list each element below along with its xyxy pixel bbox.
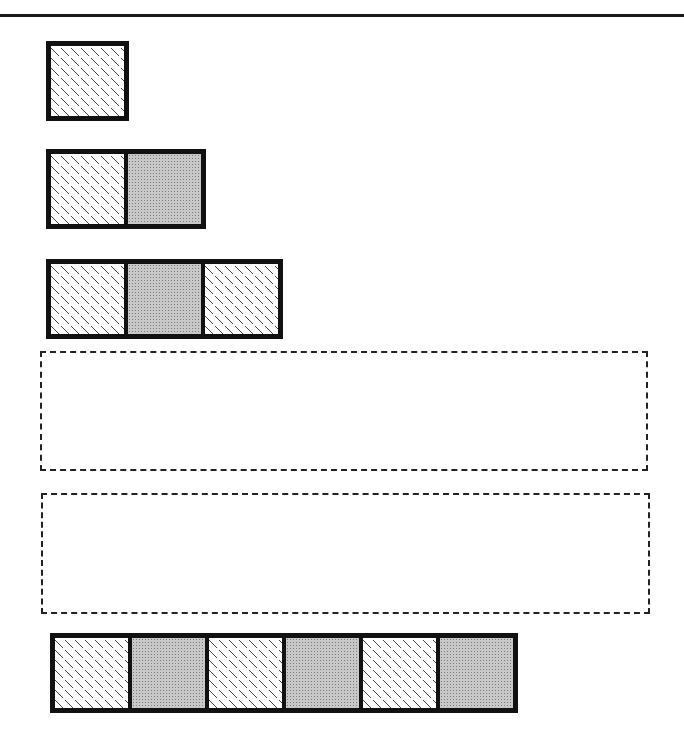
stipple-tile <box>128 264 201 334</box>
diamond-tile <box>51 154 124 224</box>
tile-strip-3 <box>46 259 283 339</box>
empty-placeholder-2 <box>41 493 650 614</box>
diamond-tile <box>51 46 124 116</box>
stipple-tile <box>132 638 205 708</box>
diamond-tile <box>205 264 278 334</box>
tile-strip-2 <box>46 149 206 229</box>
stipple-tile <box>128 154 201 224</box>
stipple-tile <box>286 638 359 708</box>
stipple-tile <box>440 638 513 708</box>
diamond-tile <box>51 264 124 334</box>
diamond-tile <box>209 638 282 708</box>
diamond-tile <box>363 638 436 708</box>
tile-strip-6 <box>50 633 518 713</box>
top-rule <box>0 14 684 17</box>
empty-placeholder-1 <box>40 351 648 471</box>
tile-strip-1 <box>46 41 129 121</box>
diamond-tile <box>55 638 128 708</box>
